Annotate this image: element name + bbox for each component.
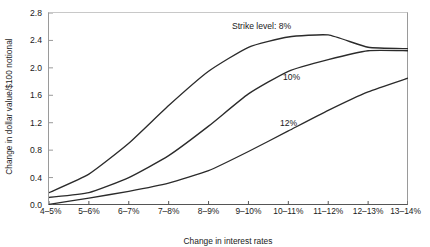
x-axis-tick-label: 10–11%: [273, 207, 303, 215]
x-axis-tick-label: 4–5%: [40, 207, 61, 215]
x-axis-tick-label: 12–13%: [353, 207, 384, 215]
y-axis-tick-label: 2.4: [30, 36, 42, 45]
y-axis-label-text: Change in dollar value/$100 notional: [5, 38, 14, 175]
y-axis-tick-label: 2.8: [30, 9, 42, 18]
x-axis-tick-label: 8–9%: [198, 207, 219, 215]
y-axis-tick-label: 2.0: [30, 64, 42, 73]
series-annotation-8pct: Strike level: 8%: [232, 22, 291, 31]
series-line-12pct: [49, 78, 408, 204]
series-lines: [49, 13, 408, 205]
x-axis-tick-label: 6–7%: [118, 207, 139, 215]
x-axis-tick-label: 7–8%: [158, 207, 179, 215]
y-axis-tick-labels: 0.00.40.81.21.62.02.42.8: [18, 0, 44, 212]
y-axis-tick-label: 0.4: [30, 173, 42, 182]
x-axis-tick-label: 11–12%: [313, 207, 343, 215]
series-line-10pct: [49, 50, 408, 197]
x-axis-tick-label: 5–6%: [78, 207, 99, 215]
y-axis-tick-label: 1.2: [30, 118, 42, 127]
y-axis-tick-label: 1.6: [30, 91, 42, 100]
y-axis-tick-label: 0.8: [30, 146, 42, 155]
series-annotation-10pct: 10%: [283, 73, 300, 82]
y-axis-label: Change in dollar value/$100 notional: [0, 0, 18, 212]
series-line-8pct: [49, 35, 408, 193]
plot-area: [48, 12, 408, 205]
series-annotation-12pct: 12%: [280, 119, 297, 128]
x-axis-tick-label: 9–10%: [235, 207, 261, 215]
chart-figure: Change in dollar value/$100 notional 0.0…: [0, 0, 430, 247]
x-axis-tick-label: 13–14%: [390, 207, 421, 215]
x-axis-label: Change in interest rates: [48, 237, 408, 247]
x-axis-tick-labels: 4–5%5–6%6–7%7–8%8–9%9–10%10–11%11–12%12–…: [48, 207, 408, 221]
